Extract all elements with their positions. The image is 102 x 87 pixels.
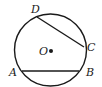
circle-diagram: D C A B O [0,0,102,87]
label-d: D [30,3,40,16]
center-point-o [49,49,53,53]
label-a: A [8,66,17,79]
chord-dc [37,17,84,47]
label-c: C [87,41,96,54]
label-b: B [85,66,94,79]
label-o: O [39,45,48,58]
